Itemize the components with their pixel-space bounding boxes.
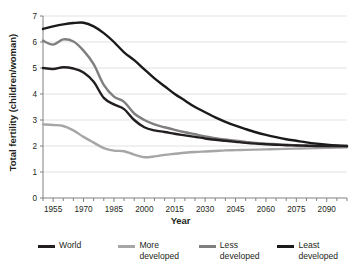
x-tick-label: 2015 [166,205,185,214]
series-line-less-developed [43,39,347,146]
axis-ticks [40,16,347,202]
legend-label: Least developed [298,240,338,261]
y-tick-labels: 01234567 [32,12,37,203]
x-tick-label: 2030 [196,205,215,214]
y-tick-label: 7 [32,12,37,21]
x-axis-title: Year [0,215,361,226]
legend-item-more[interactable]: More developed [118,240,188,261]
legend-swatch-icon [38,245,55,248]
y-tick-label: 2 [32,142,37,151]
x-tick-label: 2060 [257,205,276,214]
x-tick-label: 1970 [74,205,93,214]
fertility-line-chart: 01234567 1955197019852000201520302045206… [0,0,361,280]
y-tick-label: 3 [32,116,37,125]
x-tick-label: 2000 [135,205,154,214]
x-tick-label: 1955 [44,205,63,214]
x-tick-label: 2075 [287,205,306,214]
x-tick-labels: 1955197019852000201520302045206020752090 [44,205,336,214]
series-line-least-developed [43,23,347,146]
legend-swatch-icon [199,245,216,248]
legend-label: Less developed [220,240,260,261]
legend-item-less[interactable]: Less developed [199,240,268,261]
legend-item-least[interactable]: Least developed [277,240,346,261]
legend-swatch-icon [118,245,135,248]
chart-canvas: 01234567 1955197019852000201520302045206… [0,0,361,280]
legend-label: World [59,240,81,251]
y-tick-label: 0 [32,194,37,203]
y-tick-label: 1 [32,168,37,177]
x-tick-label: 2045 [226,205,245,214]
y-tick-label: 6 [32,38,37,47]
legend-item-world[interactable]: World [38,240,108,251]
data-series [43,23,347,158]
y-tick-label: 5 [32,64,37,73]
legend-swatch-icon [277,245,294,248]
x-tick-label: 2090 [318,205,337,214]
legend-label: More developed [139,240,179,261]
x-tick-label: 1985 [105,205,124,214]
y-tick-label: 4 [32,90,37,99]
chart-legend: WorldMore developedLess developedLeast d… [38,240,356,261]
